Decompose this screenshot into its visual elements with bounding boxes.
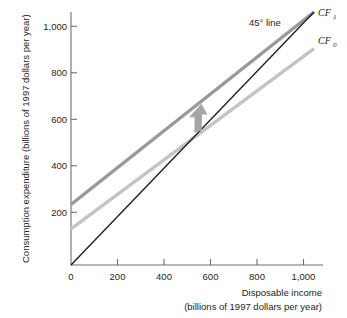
series-line-cf1	[71, 12, 314, 205]
y-tick-label-200: 200	[51, 207, 67, 218]
x-axis-ticks	[118, 259, 304, 265]
y-tick-label-600: 600	[51, 114, 67, 125]
y-axis-title-text: Consumption expenditure (billions of 199…	[20, 14, 31, 263]
consumption-function-chart: 1,000 800 600 400 200 0 200 400 600 800 …	[0, 0, 347, 318]
series-label-cf1: CF 1	[318, 7, 337, 21]
x-tick-label-600: 600	[203, 271, 219, 282]
chart-figure: 1,000 800 600 400 200 0 200 400 600 800 …	[0, 0, 347, 318]
y-axis-ticks	[71, 26, 77, 212]
series-label-cf0-text: CF	[318, 35, 332, 46]
series-label-cf1-subscript: 1	[333, 13, 337, 21]
x-axis-title-units: (billions of 1997 dollars per year)	[184, 301, 322, 312]
x-axis-title: Disposable income (billions of 1997 doll…	[184, 287, 322, 312]
y-axis-title: Consumption expenditure (billions of 199…	[20, 14, 31, 263]
series-label-45-degree-text: 45° line	[249, 17, 281, 28]
y-tick-label-400: 400	[51, 160, 67, 171]
axes-group	[71, 12, 323, 265]
y-axis-tick-labels: 1,000 800 600 400 200	[43, 21, 67, 218]
x-tick-label-0: 0	[68, 271, 73, 282]
series-label-cf0: CF 0	[318, 35, 337, 49]
series-label-cf0-subscript: 0	[333, 41, 337, 49]
x-tick-label-1000: 1,000	[292, 271, 316, 282]
x-tick-label-200: 200	[110, 271, 126, 282]
x-tick-label-400: 400	[156, 271, 172, 282]
series-label-cf1-text: CF	[318, 7, 332, 18]
y-tick-label-1000: 1,000	[43, 21, 67, 32]
series-label-45-degree: 45° line	[249, 17, 281, 28]
y-tick-label-800: 800	[51, 67, 67, 78]
x-axis-tick-labels: 0 200 400 600 800 1,000	[68, 271, 315, 282]
x-tick-label-800: 800	[249, 271, 265, 282]
series-line-45-degree	[71, 12, 314, 265]
x-axis-title-text: Disposable income	[242, 287, 322, 298]
